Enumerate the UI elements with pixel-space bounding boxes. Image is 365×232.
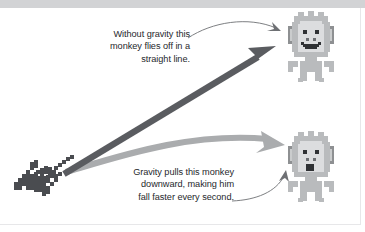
figure-illustration: Without gravity this monkey flies off in… (0, 0, 365, 232)
bottom-caption-leader-line (232, 170, 289, 201)
monkey-bottom-sprite (288, 131, 334, 202)
top-caption-leader-line (188, 22, 281, 38)
bottom-caption-text: Gravity pulls this monkey downward, maki… (104, 166, 234, 203)
top-caption-text: Without gravity this monkey flies off in… (72, 28, 190, 65)
monkey-top-sprite (288, 11, 334, 82)
